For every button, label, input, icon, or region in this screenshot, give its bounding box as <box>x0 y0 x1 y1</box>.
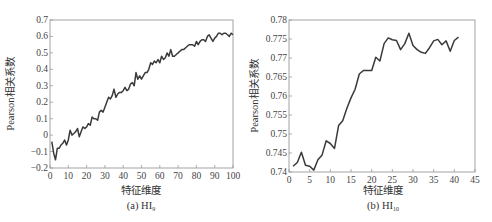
y-axis-label: Pearson相关系数 <box>4 56 16 130</box>
x-tick-label: 10 <box>326 175 336 185</box>
x-tick-label: 30 <box>100 171 110 181</box>
y-tick-label: 0.6 <box>36 31 48 41</box>
x-tick-label: 20 <box>367 175 377 185</box>
y-tick-label: 0.75 <box>270 129 287 139</box>
plot-frame <box>50 20 233 168</box>
y-tick-label: 0.78 <box>270 15 287 25</box>
x-tick-label: 90 <box>210 171 220 181</box>
y-tick-label: 0.765 <box>266 72 288 82</box>
y-tick-label: 0 <box>43 130 48 140</box>
series-line-hi9 <box>52 33 233 160</box>
y-axis-ticks: 0.740.7450.750.7550.760.7650.770.7750.78 <box>266 15 292 177</box>
x-tick-label: 80 <box>192 171 202 181</box>
x-tick-label: 35 <box>429 175 439 185</box>
series-line-hi10 <box>293 33 458 170</box>
y-tick-label: −0.2 <box>31 163 48 173</box>
y-tick-label: 0.7 <box>36 15 48 25</box>
y-tick-label: −0.1 <box>31 147 48 157</box>
y-tick-label: 0.775 <box>266 34 288 44</box>
x-tick-label: 15 <box>346 175 356 185</box>
x-tick-label: 50 <box>137 171 147 181</box>
y-tick-label: 0.1 <box>36 114 48 124</box>
x-axis-ticks: 051015202530354045 <box>287 169 480 185</box>
x-axis-label: 特征维度 <box>121 184 162 196</box>
y-tick-label: 0.755 <box>266 110 288 120</box>
chart-hi9: −0.2−0.100.10.20.30.40.50.60.7 010203040… <box>4 15 240 212</box>
y-tick-label: 0.4 <box>36 64 48 74</box>
x-tick-label: 0 <box>48 171 53 181</box>
y-tick-label: 0.745 <box>266 148 288 158</box>
y-tick-label: 0.5 <box>36 48 48 58</box>
x-tick-label: 20 <box>82 171 92 181</box>
x-tick-label: 40 <box>450 175 460 185</box>
y-tick-label: 0.77 <box>270 53 287 63</box>
x-tick-label: 0 <box>287 175 292 185</box>
caption-b: (b) HI10 <box>367 200 399 212</box>
x-tick-label: 25 <box>388 175 398 185</box>
y-tick-label: 0.74 <box>270 167 287 177</box>
x-tick-label: 30 <box>408 175 418 185</box>
chart-hi10: 0.740.7450.750.7550.760.7650.770.7750.78… <box>248 15 480 212</box>
x-tick-label: 40 <box>118 171 128 181</box>
x-tick-label: 70 <box>173 171 183 181</box>
x-axis-ticks: 0102030405060708090100 <box>48 165 241 181</box>
x-tick-label: 60 <box>155 171 165 181</box>
x-tick-label: 10 <box>64 171 74 181</box>
x-tick-label: 100 <box>226 171 241 181</box>
caption-a: (a) HI9 <box>127 200 155 212</box>
y-tick-label: 0.3 <box>36 81 48 91</box>
y-axis-label: Pearson相关系数 <box>248 58 260 132</box>
x-axis-label: 特征维度 <box>363 184 404 196</box>
x-tick-label: 5 <box>307 175 312 185</box>
y-tick-label: 0.2 <box>36 97 48 107</box>
y-tick-label: 0.76 <box>270 91 287 101</box>
figure: −0.2−0.100.10.20.30.40.50.60.7 010203040… <box>0 0 492 222</box>
x-tick-label: 45 <box>470 175 480 185</box>
